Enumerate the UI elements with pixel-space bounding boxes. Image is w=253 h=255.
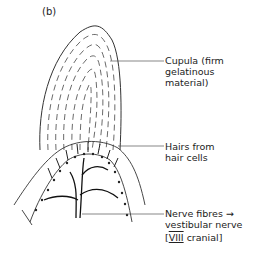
cupula-label-line1: Cupula (firm <box>165 55 224 66</box>
nerve-label: Nerve fibres → vestibular nerve [VIII cr… <box>165 208 242 243</box>
hairs-label-line1: Hairs from <box>165 141 215 152</box>
hair-cell-layer <box>14 141 145 225</box>
nerve-label-line3: [VIII cranial] <box>165 232 242 243</box>
nerve-fibres <box>44 158 118 218</box>
cupula-label: Cupula (firm gelatinous material) <box>165 55 224 88</box>
nerve-label-line2: vestibular nerve <box>165 219 242 230</box>
cupula-outline <box>40 26 121 150</box>
hairs-label-line2: hair cells <box>165 152 215 163</box>
nerve-label-line1: Nerve fibres → <box>165 208 242 219</box>
cupula-label-line2: gelatinous <box>165 66 224 77</box>
bracket-close: ] <box>219 232 223 243</box>
cupula-striations <box>48 34 115 150</box>
cupula-label-line3: material) <box>165 77 224 88</box>
hairs-label: Hairs from hair cells <box>165 141 215 163</box>
cranial-text: cranial <box>184 232 219 243</box>
cranial-numeral: VIII <box>169 232 184 243</box>
